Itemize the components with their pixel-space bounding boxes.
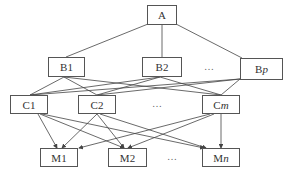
node-c1-label: C1 [23,99,36,111]
arrow-c1-m1 [38,114,57,148]
edge-bp-c2 [97,79,240,95]
ellipsis-m: … [167,151,177,162]
node-cm: Cm [202,95,240,114]
node-m1-label: M1 [51,152,66,164]
node-m2-label: M2 [120,152,135,164]
node-b2: B2 [142,57,182,77]
node-b2-label: B2 [156,61,169,73]
node-c2-label: C2 [91,99,104,111]
edge-a-b1 [66,24,148,57]
node-mn: Mn [202,148,240,167]
node-cm-subscript: m [221,99,229,111]
node-m1: M1 [40,148,78,167]
node-a-label: A [158,9,166,21]
node-mn-subscript: n [223,152,229,164]
node-c2: C2 [78,95,116,114]
ellipsis-c: … [152,98,162,109]
ellipsis-b: … [204,61,214,72]
node-mn-label: M [213,152,223,164]
node-bp: Bp [240,58,283,80]
edge-bp-cm [221,79,240,95]
edge-b2-cm [160,77,221,95]
arrow-cm-m2 [128,114,214,148]
node-bp-subscript: p [262,63,268,75]
node-cm-label: C [213,99,220,111]
node-a: A [147,5,177,25]
arrow-c1-m2 [40,114,124,148]
edge-a-bp [176,24,242,58]
edge-bp-c1 [30,79,240,95]
node-c1: C1 [10,95,48,114]
node-b1: B1 [48,57,85,77]
node-b1-label: B1 [60,61,73,73]
node-m2: M2 [108,148,147,167]
arrow-c1-mn [42,114,204,148]
